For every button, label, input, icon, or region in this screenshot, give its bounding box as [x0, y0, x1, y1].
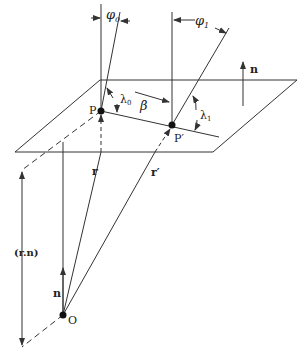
lambda1-arc-down	[195, 120, 197, 130]
point-p	[98, 108, 105, 115]
geometry-diagram: φ0 φ1 λ0 β λ1 n P P′ r r′ (r.n) n O	[0, 0, 307, 362]
tilted-line-p	[101, 12, 120, 111]
label-phi0: φ0	[106, 7, 120, 24]
label-lambda1: λ1	[200, 109, 211, 123]
label-lambda0: λ0	[120, 93, 131, 107]
vector-r-prime	[63, 152, 155, 315]
label-r-prime: r′	[151, 166, 160, 179]
diagram-canvas: φ0 φ1 λ0 β λ1 n P P′ r r′ (r.n) n O	[0, 0, 307, 362]
plane	[15, 80, 297, 152]
point-o	[60, 312, 67, 319]
label-r: r	[92, 165, 98, 178]
label-rn: (r.n)	[14, 247, 39, 258]
vector-r-prime-dashed	[155, 129, 170, 152]
label-p-prime: P′	[174, 132, 184, 145]
dashed-p-to-left	[22, 111, 101, 170]
lambda0-arrow-up	[107, 88, 113, 98]
label-beta: β	[139, 98, 148, 113]
lambda1-arc-up	[193, 96, 196, 110]
label-p: P	[89, 104, 97, 117]
dashed-o-to-left	[22, 315, 63, 347]
label-o: O	[68, 314, 77, 327]
label-phi1: φ1	[195, 13, 209, 30]
point-p-prime	[169, 122, 176, 129]
phi1-arrow-right	[215, 28, 226, 33]
label-n-plane: n	[250, 63, 258, 76]
label-n-origin: n	[53, 287, 61, 300]
